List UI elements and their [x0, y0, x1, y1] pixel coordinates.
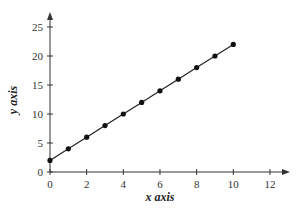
data-point — [231, 42, 236, 47]
x-tick-label: 8 — [194, 178, 200, 190]
data-series — [47, 42, 236, 163]
x-tick-label: 2 — [84, 178, 90, 190]
x-axis-label: x axis — [144, 190, 174, 204]
x-tick-label: 6 — [157, 178, 163, 190]
x-tick-label: 10 — [228, 178, 240, 190]
data-point — [121, 111, 126, 116]
data-point — [102, 123, 107, 128]
y-tick-label: 15 — [32, 79, 44, 91]
y-tick-label: 20 — [32, 50, 44, 62]
axes — [47, 12, 290, 175]
line-chart: 024681012 0510152025 x axis y axis — [0, 0, 304, 212]
x-tick-label: 4 — [121, 178, 127, 190]
y-tick-label: 0 — [38, 166, 44, 178]
y-axis-label: y axis — [6, 86, 20, 117]
x-axis-arrow-icon — [282, 169, 290, 175]
x-tick-label: 12 — [264, 178, 275, 190]
data-point — [212, 53, 217, 58]
y-axis-arrow-icon — [47, 12, 53, 20]
data-point — [176, 77, 181, 82]
y-tick-label: 25 — [32, 21, 44, 33]
data-point — [47, 158, 52, 163]
data-point — [194, 65, 199, 70]
data-point — [66, 146, 71, 151]
data-point — [139, 100, 144, 105]
y-tick-label: 10 — [32, 108, 44, 120]
data-point — [157, 88, 162, 93]
y-tick-label: 5 — [38, 137, 44, 149]
data-point — [84, 135, 89, 140]
x-tick-label: 0 — [47, 178, 53, 190]
